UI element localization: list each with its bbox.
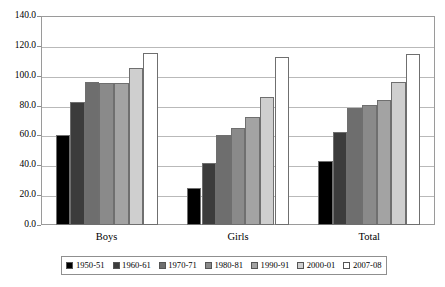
y-axis-tick-label: 100.0 xyxy=(0,71,36,81)
bar xyxy=(56,135,71,225)
bar xyxy=(275,57,290,225)
bar xyxy=(187,188,202,225)
x-axis-label-girls: Girls xyxy=(172,232,303,243)
legend-swatch-icon xyxy=(159,262,166,269)
legend-item[interactable]: 1990-91 xyxy=(251,261,289,270)
bar xyxy=(406,54,421,225)
y-axis-tick-label: 0.0 xyxy=(0,220,36,230)
legend-label: 1980-81 xyxy=(214,261,243,270)
y-axis-tick-label: 40.0 xyxy=(0,160,36,170)
y-axis-tick-label: 140.0 xyxy=(0,11,36,21)
legend-label: 2007-08 xyxy=(353,261,382,270)
y-axis-tick-label: 20.0 xyxy=(0,190,36,200)
legend-item[interactable]: 1950-51 xyxy=(66,261,104,270)
bars-layer xyxy=(41,16,435,225)
bar xyxy=(362,105,377,225)
bar xyxy=(377,100,392,225)
legend-item[interactable]: 1960-61 xyxy=(113,261,151,270)
bar xyxy=(143,53,158,225)
legend-item[interactable]: 1980-81 xyxy=(205,261,243,270)
legend-item[interactable]: 1970-71 xyxy=(159,261,197,270)
bar xyxy=(231,128,246,225)
bar xyxy=(99,83,114,225)
legend-swatch-icon xyxy=(205,262,212,269)
bar xyxy=(202,163,217,225)
y-axis-tick-mark xyxy=(37,225,41,226)
bar xyxy=(129,68,144,225)
legend-label: 1950-51 xyxy=(76,261,105,270)
bar xyxy=(85,82,100,225)
legend-swatch-icon xyxy=(66,262,73,269)
legend-swatch-icon xyxy=(113,262,120,269)
legend-label: 1960-61 xyxy=(122,261,151,270)
legend-label: 2000-01 xyxy=(307,261,336,270)
legend-item[interactable]: 2007-08 xyxy=(343,261,381,270)
bar xyxy=(318,161,333,225)
x-axis-label-boys: Boys xyxy=(41,232,172,243)
y-axis-tick-label: 120.0 xyxy=(0,41,36,51)
bar xyxy=(245,117,260,225)
legend-label: 1990-91 xyxy=(261,261,290,270)
bar xyxy=(391,82,406,225)
y-axis-tick-label: 80.0 xyxy=(0,101,36,111)
legend-label: 1970-71 xyxy=(168,261,197,270)
bar xyxy=(114,83,129,225)
legend-item[interactable]: 2000-01 xyxy=(297,261,335,270)
y-axis-tick-label: 60.0 xyxy=(0,130,36,140)
bar xyxy=(347,108,362,225)
legend-swatch-icon xyxy=(251,262,258,269)
bar xyxy=(333,132,348,225)
bar xyxy=(216,135,231,225)
bar-chart: 140.0120.0100.080.060.040.020.00.0 BoysG… xyxy=(0,0,445,287)
legend-swatch-icon xyxy=(297,262,304,269)
bar xyxy=(70,102,85,225)
chart-legend: 1950-511960-611970-711980-811990-912000-… xyxy=(61,256,387,275)
legend-swatch-icon xyxy=(343,262,350,269)
bar xyxy=(260,97,275,225)
x-axis-label-total: Total xyxy=(304,232,435,243)
